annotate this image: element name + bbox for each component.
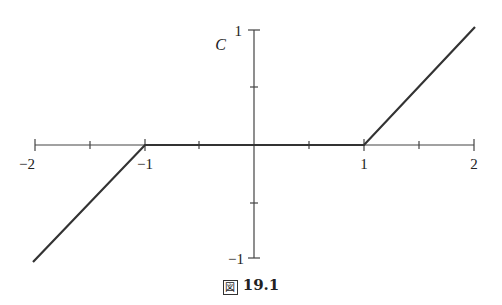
x-tick-label-2: 2: [470, 156, 478, 172]
x-tick-label-minus-2: −2: [19, 156, 35, 172]
x-tick-label-minus-1: −1: [137, 156, 153, 172]
y-axis-variable-label: C: [215, 36, 226, 53]
figure-mark-icon: 図: [223, 280, 238, 295]
y-tick-label-minus-1: −1: [228, 251, 244, 267]
x-tick-label-1: 1: [360, 156, 368, 172]
figure-number: 19.1: [243, 276, 280, 294]
figure-caption: 図19.1: [0, 276, 502, 295]
y-tick-label-1: 1: [235, 23, 243, 39]
chart-plot: −2 −1 1 2 1 −1 C: [0, 0, 502, 305]
